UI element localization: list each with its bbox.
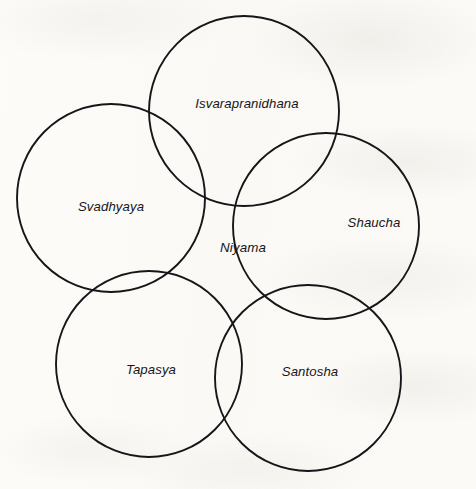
- label-isvarapranidhana: Isvarapranidhana: [195, 96, 299, 111]
- niyama-venn-diagram: Isvarapranidhana Shaucha Santosha Tapasy…: [0, 0, 476, 489]
- label-niyama: Niyama: [220, 240, 266, 255]
- circle-svadhyaya[interactable]: [17, 104, 205, 292]
- label-tapasya: Tapasya: [126, 362, 176, 377]
- label-svadhyaya: Svadhyaya: [78, 199, 144, 214]
- diagram-page: Isvarapranidhana Shaucha Santosha Tapasy…: [0, 0, 476, 489]
- label-shaucha: Shaucha: [348, 215, 401, 230]
- venn-labels-group: Isvarapranidhana Shaucha Santosha Tapasy…: [78, 96, 400, 379]
- label-santosha: Santosha: [282, 364, 339, 379]
- venn-circles-group: [17, 16, 419, 471]
